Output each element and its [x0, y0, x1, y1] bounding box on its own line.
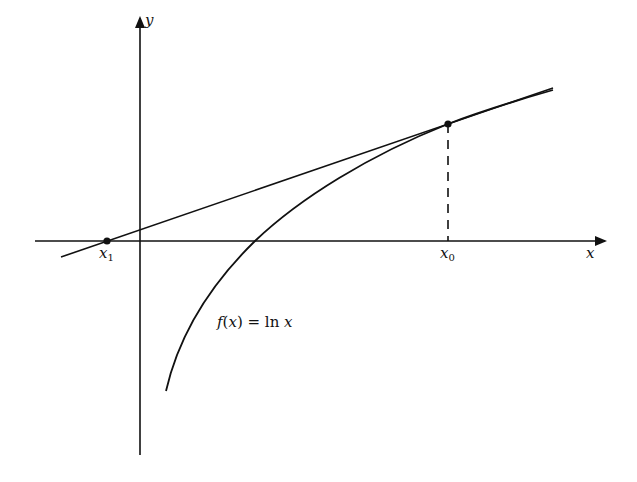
- x1-label: x1: [99, 246, 114, 263]
- tangent-line: [61, 88, 553, 257]
- x-axis-label: x: [586, 246, 594, 261]
- x0-label: x0: [440, 246, 455, 263]
- x1-label-sub: 1: [107, 252, 113, 263]
- function-label: f(x) = ln x: [217, 315, 293, 330]
- function-ln: ln: [265, 313, 279, 331]
- point-x0: [444, 120, 451, 127]
- function-equals: =: [243, 313, 265, 331]
- y-axis-label: y: [145, 13, 153, 28]
- x0-label-sub: 0: [448, 252, 454, 263]
- diagram-canvas: [0, 0, 637, 482]
- function-arg-var: x: [228, 313, 236, 331]
- function-var: x: [279, 313, 292, 331]
